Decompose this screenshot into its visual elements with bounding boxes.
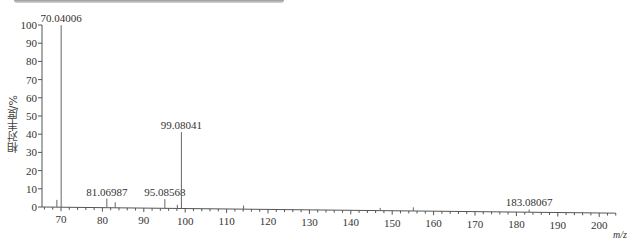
x-tick-label: 160 <box>425 217 442 229</box>
x-tick-label: 120 <box>260 215 277 227</box>
peak-label: 81.06987 <box>86 186 128 198</box>
x-axis-label: m/z <box>613 229 627 240</box>
y-tick-label: 70 <box>26 74 38 86</box>
y-tick-label: 30 <box>26 146 38 158</box>
x-tick-label: 130 <box>301 216 318 228</box>
peak-label: 99.08041 <box>161 119 202 131</box>
peak-label: 70.04006 <box>41 12 83 24</box>
x-tick-label: 70 <box>56 213 68 225</box>
y-tick-label: 100 <box>21 19 38 31</box>
x-tick-label: 150 <box>384 217 401 229</box>
x-tick-label: 100 <box>177 215 194 227</box>
y-tick-label: 10 <box>26 183 38 195</box>
x-tick-label: 140 <box>343 216 360 228</box>
mass-spectrum-chart: 0102030405060708090100708090100110120130… <box>0 0 636 251</box>
y-tick-label: 50 <box>26 110 38 122</box>
y-tick-label: 90 <box>26 37 38 49</box>
x-tick-label: 180 <box>508 218 525 230</box>
peak-label: 183.08067 <box>506 196 553 208</box>
y-tick-label: 0 <box>32 201 38 213</box>
x-tick-label: 170 <box>467 218 484 230</box>
x-tick-label: 190 <box>550 219 567 231</box>
peak-label: 95.08568 <box>144 186 186 198</box>
x-tick-label: 110 <box>219 215 236 227</box>
x-tick-label: 90 <box>138 214 150 226</box>
chart-svg: 0102030405060708090100708090100110120130… <box>0 0 636 251</box>
y-tick-label: 40 <box>26 128 38 140</box>
x-tick-label: 80 <box>97 214 109 226</box>
y-tick-label: 80 <box>26 55 38 67</box>
y-tick-label: 60 <box>26 92 38 104</box>
y-tick-label: 20 <box>26 165 38 177</box>
x-tick-label: 200 <box>591 219 608 231</box>
